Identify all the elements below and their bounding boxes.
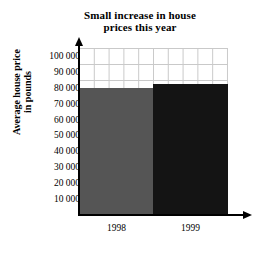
y-tick-label: 90 000	[32, 66, 80, 78]
x-axis-tick-group: 1998 1999	[80, 221, 228, 237]
chart-title: Small increase in house prices this year	[60, 9, 220, 33]
y-tick-label: 100 000	[32, 50, 80, 62]
y-tick-label: 40 000	[32, 145, 80, 157]
bar-chart: Small increase in house prices this year…	[0, 0, 271, 256]
y-tick-label: 20 000	[32, 177, 80, 189]
x-axis-line	[78, 214, 245, 216]
chart-title-line-2: prices this year	[60, 21, 220, 33]
x-axis-arrow-icon	[243, 211, 252, 219]
y-axis-tick-group: 10 00020 00030 00040 00050 00060 00070 0…	[20, 0, 80, 256]
y-tick-label: 80 000	[32, 82, 80, 94]
chart-title-line-1: Small increase in house	[60, 9, 220, 21]
y-tick-label: 10 000	[32, 193, 80, 205]
plot-area	[80, 48, 228, 215]
y-axis-line	[78, 44, 80, 216]
x-tick-label-1998: 1998	[80, 221, 153, 235]
bar-1999	[153, 84, 228, 215]
y-axis-arrow-icon	[75, 37, 83, 46]
y-tick-label: 50 000	[32, 129, 80, 141]
bar-1998	[80, 88, 153, 215]
y-tick-label: 30 000	[32, 161, 80, 173]
y-tick-label: 70 000	[32, 98, 80, 110]
x-tick-label-1999: 1999	[153, 221, 228, 235]
y-tick-label: 60 000	[32, 114, 80, 126]
